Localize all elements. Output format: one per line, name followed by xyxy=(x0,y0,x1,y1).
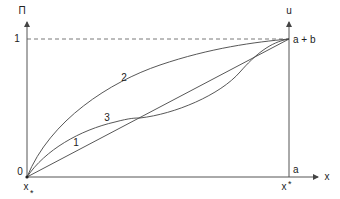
right-tick-bottom: a xyxy=(293,164,299,175)
curve-1-label: 1 xyxy=(73,137,79,148)
curve-2-label: 2 xyxy=(121,72,127,83)
curve-3-label: 3 xyxy=(104,112,110,123)
x-right-label: x xyxy=(282,181,287,192)
right-tick-top: a + b xyxy=(293,34,316,45)
left-tick-top: 1 xyxy=(14,33,20,44)
left-tick-bottom: 0 xyxy=(17,166,23,177)
curve-1 xyxy=(27,39,289,177)
origin-point xyxy=(25,175,28,178)
x-left-subscript: * xyxy=(30,188,34,198)
x-left-label: x xyxy=(24,181,29,192)
diagram-canvas: Π u x 1 0 a + b a x * x * 2 3 1 xyxy=(0,0,340,199)
right-axis-label: u xyxy=(286,5,292,16)
x-right-superscript: * xyxy=(288,179,292,189)
left-axis-label: Π xyxy=(18,5,25,16)
x-axis-label: x xyxy=(325,171,330,182)
